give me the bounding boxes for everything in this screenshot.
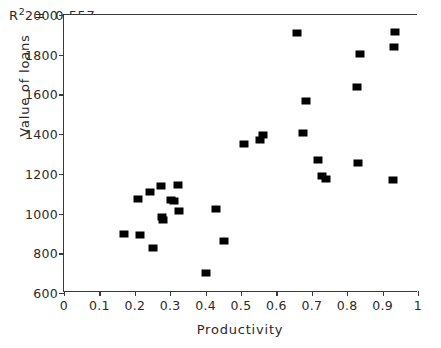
x-tick-label: 0.3 — [160, 298, 181, 313]
x-tick-mark — [383, 291, 384, 296]
x-tick-mark — [418, 291, 419, 296]
data-point — [175, 207, 184, 214]
data-point — [298, 130, 307, 137]
data-point — [388, 176, 397, 183]
plot-area: 600800100012001400160018002000 00.10.20.… — [63, 14, 417, 292]
data-point — [201, 270, 210, 277]
data-point — [211, 205, 220, 212]
y-tick-mark — [59, 134, 64, 135]
x-tick-mark — [170, 291, 171, 296]
y-tick-mark — [59, 174, 64, 175]
y-tick-label: 800 — [33, 246, 58, 261]
data-point — [259, 131, 268, 138]
data-point — [133, 195, 142, 202]
data-point — [353, 159, 362, 166]
data-point — [146, 188, 155, 195]
x-tick-mark — [276, 291, 277, 296]
y-tick-mark — [59, 214, 64, 215]
x-tick-label: 0.8 — [337, 298, 358, 313]
x-tick-label: 0.6 — [266, 298, 287, 313]
data-point — [390, 44, 399, 51]
x-tick-mark — [241, 291, 242, 296]
x-tick-mark — [206, 291, 207, 296]
x-tick-label: 0.2 — [124, 298, 145, 313]
y-tick-label: 600 — [33, 286, 58, 301]
y-tick-label: 1000 — [25, 206, 58, 221]
data-point — [220, 237, 229, 244]
y-tick-mark — [59, 94, 64, 95]
x-tick-label: 0.9 — [372, 298, 393, 313]
x-tick-mark — [135, 291, 136, 296]
data-point — [321, 176, 330, 183]
x-tick-mark — [312, 291, 313, 296]
data-point — [353, 84, 362, 91]
x-tick-mark — [99, 291, 100, 296]
y-axis-label: Value of loans — [17, 11, 32, 161]
y-tick-label: 1200 — [25, 166, 58, 181]
data-point — [301, 98, 310, 105]
x-tick-label: 0.4 — [195, 298, 216, 313]
x-tick-label: 0.5 — [231, 298, 252, 313]
data-point — [157, 183, 166, 190]
y-tick-mark — [59, 15, 64, 16]
data-point — [390, 29, 399, 36]
data-point — [355, 51, 364, 58]
x-tick-label: 0.7 — [301, 298, 322, 313]
x-axis-label: Productivity — [63, 322, 417, 337]
x-tick-label: 0.1 — [89, 298, 110, 313]
data-point — [159, 216, 168, 223]
data-point — [136, 231, 145, 238]
x-tick-mark — [64, 291, 65, 296]
y-tick-mark — [59, 253, 64, 254]
data-point — [169, 198, 178, 205]
y-tick-mark — [59, 55, 64, 56]
x-tick-mark — [347, 291, 348, 296]
data-point — [292, 30, 301, 37]
data-point — [148, 244, 157, 251]
data-point — [314, 156, 323, 163]
data-point — [120, 231, 129, 238]
x-tick-label: 1 — [414, 298, 422, 313]
scatter-plot-figure: R2 = 0.557 60080010001200140016001800200… — [0, 0, 441, 348]
x-tick-label: 0 — [60, 298, 68, 313]
data-point — [239, 141, 248, 148]
data-point — [174, 181, 183, 188]
